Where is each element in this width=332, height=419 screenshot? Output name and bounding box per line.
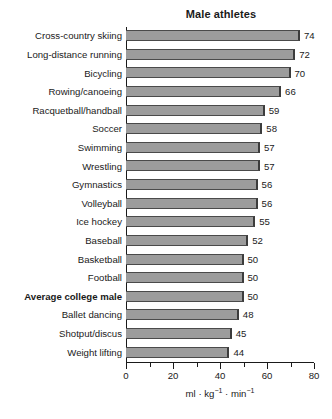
x-tick-label: 60 (262, 371, 273, 381)
bar-row-label: Weight lifting (2, 348, 122, 358)
bar-row-label: Cross-country skiing (2, 32, 122, 42)
bar-rows-container: Cross-country skiing74Long-distance runn… (0, 27, 332, 362)
bar-track: 70 (126, 64, 314, 83)
bar-value-label: 48 (243, 311, 254, 321)
bar-row: Soccer58 (0, 120, 332, 139)
bar-row-label: Racquetball/handball (2, 106, 122, 116)
x-axis-title-sep1: · (198, 388, 201, 399)
bar-row-label: Soccer (2, 125, 122, 135)
bar-row: Racquetball/handball59 (0, 101, 332, 120)
bar (126, 254, 244, 265)
x-axis-title: ml · kg−1 · min−1 (126, 388, 314, 399)
bar-value-label: 56 (262, 180, 273, 190)
bar-row-label: Shotput/discus (2, 329, 122, 339)
bar (126, 235, 248, 246)
bar-row-label: Ballet dancing (2, 311, 122, 321)
bar-value-label: 52 (252, 236, 263, 246)
bar (126, 272, 244, 283)
x-tick-minor (150, 363, 151, 367)
x-tick-major (220, 363, 221, 369)
bar-track: 57 (126, 157, 314, 176)
bar-row-label: Rowing/canoeing (2, 87, 122, 97)
bar (126, 86, 281, 97)
bar-track: 48 (126, 306, 314, 325)
bar-row: Baseball52 (0, 232, 332, 251)
bar-row: Long-distance running72 (0, 46, 332, 65)
x-tick-minor (291, 363, 292, 367)
bar (126, 142, 260, 153)
bar-value-label: 50 (248, 273, 259, 283)
bar-row-label: Baseball (2, 236, 122, 246)
bar-row-label: Wrestling (2, 162, 122, 172)
bar-value-label: 59 (269, 106, 280, 116)
x-axis-title-kg: kg (204, 388, 214, 399)
x-tick-major (314, 363, 315, 369)
bar-track: 66 (126, 83, 314, 102)
bar-row: Wrestling57 (0, 157, 332, 176)
bar-track: 56 (126, 176, 314, 195)
bar-track: 50 (126, 250, 314, 269)
bar-row-label: Average college male (2, 292, 122, 302)
bar-track: 55 (126, 213, 314, 232)
bar-value-label: 74 (304, 32, 315, 42)
x-tick-label: 0 (123, 371, 128, 381)
x-axis-title-kg-exponent: −1 (214, 387, 222, 394)
chart-title: Male athletes (126, 8, 316, 20)
bar-value-label: 57 (264, 143, 275, 153)
bar-track: 58 (126, 120, 314, 139)
bar-value-label: 55 (259, 218, 270, 228)
bar-row: Cross-country skiing74 (0, 27, 332, 46)
bar-row: Swimming57 (0, 139, 332, 158)
bar-row: Bicycling70 (0, 64, 332, 83)
bar (126, 347, 229, 358)
bar-value-label: 72 (299, 50, 310, 60)
x-axis-title-sep2: · (225, 388, 228, 399)
bar-row: Ice hockey55 (0, 213, 332, 232)
bar-row: Football50 (0, 269, 332, 288)
bar-track: 72 (126, 46, 314, 65)
bar-row-label: Basketball (2, 255, 122, 265)
x-tick-label: 80 (309, 371, 320, 381)
x-tick-major (173, 363, 174, 369)
bar-row: Shotput/discus45 (0, 325, 332, 344)
bar-row: Weight lifting44 (0, 343, 332, 362)
bar (126, 198, 258, 209)
bar-value-label: 70 (295, 69, 306, 79)
x-axis-title-min-exponent: −1 (246, 387, 254, 394)
bar (126, 309, 239, 320)
chart-figure: Male athletes Cross-country skiing74Long… (0, 0, 332, 419)
bar (126, 30, 300, 41)
bar-track: 74 (126, 27, 314, 46)
bar-value-label: 45 (236, 329, 247, 339)
bar (126, 105, 265, 116)
bar-row-label: Long-distance running (2, 50, 122, 60)
bar-row: Average college male50 (0, 288, 332, 307)
x-tick-major (267, 363, 268, 369)
bar-value-label: 57 (264, 162, 275, 172)
bar-row: Gymnastics56 (0, 176, 332, 195)
x-axis-title-min: min (231, 388, 246, 399)
bar-value-label: 66 (285, 87, 296, 97)
bar-track: 50 (126, 288, 314, 307)
bar (126, 49, 295, 60)
bar (126, 179, 258, 190)
x-tick-label: 20 (168, 371, 179, 381)
bar-row: Basketball50 (0, 250, 332, 269)
bar-track: 50 (126, 269, 314, 288)
bar (126, 291, 244, 302)
bar-value-label: 58 (266, 125, 277, 135)
bar-track: 52 (126, 232, 314, 251)
bar (126, 328, 232, 339)
bar-row: Rowing/canoeing66 (0, 83, 332, 102)
bar-row-label: Swimming (2, 143, 122, 153)
bar-row-label: Bicycling (2, 69, 122, 79)
x-tick-label: 40 (215, 371, 226, 381)
bar-value-label: 44 (233, 348, 244, 358)
bar-row: Ballet dancing48 (0, 306, 332, 325)
bar-row-label: Volleyball (2, 199, 122, 209)
bar (126, 67, 291, 78)
x-axis-title-ml: ml (186, 388, 196, 399)
bar-track: 45 (126, 325, 314, 344)
bar-track: 44 (126, 343, 314, 362)
bar-track: 57 (126, 139, 314, 158)
